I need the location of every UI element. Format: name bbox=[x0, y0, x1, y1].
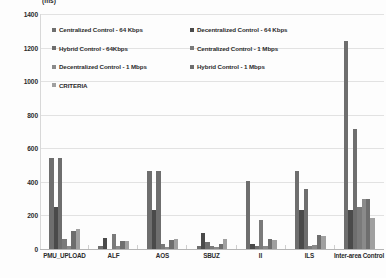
legend-swatch-icon bbox=[190, 65, 194, 69]
legend-label: Decentralized Control - 1 Mbps bbox=[59, 63, 147, 70]
legend-swatch-icon bbox=[52, 46, 56, 50]
y-axis-unit-label: (ms) bbox=[42, 0, 56, 4]
legend-item[interactable]: Centralized Control - 64 Kbps bbox=[52, 26, 190, 33]
y-axis-tick-label: 1400 bbox=[4, 11, 38, 18]
legend-swatch-icon bbox=[190, 46, 194, 50]
bar bbox=[174, 239, 178, 249]
legend-item[interactable]: Hybrid Control - 1 Mbps bbox=[190, 63, 302, 70]
bar bbox=[259, 220, 263, 249]
y-axis-tick-label: 600 bbox=[4, 145, 38, 152]
y-axis-tick-label: 0 bbox=[4, 246, 38, 253]
bar-chart: 1400120010008006004002000 (ms) PMU_UPLOA… bbox=[0, 0, 386, 278]
bar bbox=[58, 158, 62, 249]
legend-item[interactable]: Centralized Control - 1 Mbps bbox=[190, 45, 302, 52]
bar bbox=[125, 241, 129, 249]
x-axis-category-label: II bbox=[236, 252, 285, 266]
legend-label: CRITERIA bbox=[59, 82, 87, 89]
y-axis-tick-label: 1200 bbox=[4, 44, 38, 51]
y-axis-tick-labels: 1400120010008006004002000 bbox=[0, 0, 38, 278]
y-axis-tick-label: 800 bbox=[4, 111, 38, 118]
x-axis-category-label: AOS bbox=[138, 252, 187, 266]
bar bbox=[156, 171, 160, 249]
bar bbox=[76, 229, 80, 249]
bar bbox=[272, 240, 276, 249]
x-axis-category-labels: PMU_UPLOADALFAOSSBUZIIILSInter-area Cont… bbox=[40, 252, 384, 266]
x-axis-line bbox=[40, 249, 384, 250]
legend-label: Hybrid Control - 1 Mbps bbox=[197, 63, 265, 70]
x-axis-category-label: ALF bbox=[89, 252, 138, 266]
legend-item[interactable]: CRITERIA bbox=[52, 82, 190, 89]
x-axis-category-label: SBUZ bbox=[187, 252, 236, 266]
legend-label: Decentralized Control - 64 Kbps bbox=[197, 26, 287, 33]
bar bbox=[103, 238, 107, 249]
x-axis-category-label: Inter-area Control bbox=[334, 252, 384, 266]
y-axis-tick-label: 400 bbox=[4, 178, 38, 185]
legend-swatch-icon bbox=[52, 28, 56, 32]
legend-item[interactable]: Decentralized Control - 64 Kbps bbox=[190, 26, 302, 33]
legend-label: Centralized Control - 64 Kbps bbox=[59, 26, 143, 33]
bar-group bbox=[335, 14, 384, 249]
y-axis-tick-label: 200 bbox=[4, 212, 38, 219]
legend-item[interactable]: Hybrid Control - 64Kbps bbox=[52, 45, 190, 52]
legend-label: Hybrid Control - 64Kbps bbox=[59, 45, 128, 52]
y-axis-tick-label: 1000 bbox=[4, 78, 38, 85]
bar bbox=[321, 236, 325, 249]
bar bbox=[370, 218, 374, 249]
legend-swatch-icon bbox=[52, 65, 56, 69]
legend-label: Centralized Control - 1 Mbps bbox=[197, 45, 278, 52]
x-axis-category-label: PMU_UPLOAD bbox=[40, 252, 89, 266]
legend-item[interactable]: Decentralized Control - 1 Mbps bbox=[52, 63, 190, 70]
legend-swatch-icon bbox=[190, 28, 194, 32]
bar bbox=[304, 189, 308, 249]
x-axis-category-label: ILS bbox=[285, 252, 334, 266]
chart-legend: Centralized Control - 64 KbpsDecentraliz… bbox=[52, 26, 302, 89]
bar bbox=[223, 239, 227, 249]
bar bbox=[246, 181, 250, 249]
legend-swatch-icon bbox=[52, 83, 56, 87]
